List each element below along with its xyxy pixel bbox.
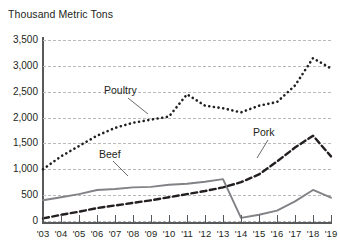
- leader-poultry: [128, 98, 148, 114]
- annotation-leader-lines: [0, 0, 340, 251]
- chart-container: Thousand Metric Tons 05001,0001,5002,000…: [0, 0, 340, 251]
- leader-pork: [257, 140, 268, 158]
- leader-beef: [113, 161, 128, 176]
